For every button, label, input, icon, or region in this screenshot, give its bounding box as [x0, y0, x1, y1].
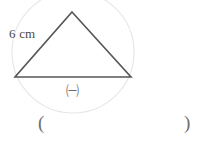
geometry-figure: 6 cm ㈠ ( ) — [0, 0, 204, 142]
side-length-label: 6 cm — [9, 27, 35, 40]
answer-open-paren: ( — [38, 113, 44, 132]
base-marker-label: ㈠ — [64, 83, 80, 99]
triangle-shape — [15, 12, 131, 77]
answer-close-paren: ) — [184, 113, 190, 132]
figure-canvas — [0, 0, 204, 142]
